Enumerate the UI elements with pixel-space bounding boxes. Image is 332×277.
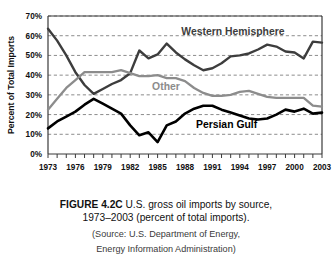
caption-title-text: U.S. gross oil imports by source, xyxy=(126,199,273,210)
y-tick-10pct: 10% xyxy=(26,130,43,139)
y-tick-50pct: 50% xyxy=(26,51,43,60)
series-label-other: Other xyxy=(152,81,180,92)
y-tick-70pct: 70% xyxy=(26,12,43,21)
x-tick-1988: 1988 xyxy=(176,163,195,172)
y-tick-30pct: 30% xyxy=(26,91,43,100)
caption-source-line-2: Energy Information Administration) xyxy=(14,243,318,256)
line-chart: 0%10%20%30%40%50%60%70% 1973197619791982… xyxy=(0,0,332,196)
y-tick-60pct: 60% xyxy=(26,32,43,41)
x-tick-1982: 1982 xyxy=(121,163,140,172)
figure-caption: FIGURE 4.2C U.S. gross oil imports by so… xyxy=(0,198,332,256)
x-axis-tick-labels: 1973197619791982198519881991199419972000… xyxy=(39,163,332,172)
x-tick-1985: 1985 xyxy=(148,163,167,172)
y-tick-0pct: 0% xyxy=(30,150,43,159)
y-tick-40pct: 40% xyxy=(26,71,43,80)
x-tick-1976: 1976 xyxy=(66,163,85,172)
figure-number: FIGURE 4.2C xyxy=(60,199,123,210)
x-tick-1973: 1973 xyxy=(39,163,58,172)
series-label-persian-gulf: Persian Gulf xyxy=(196,119,258,130)
x-tick-2000: 2000 xyxy=(285,163,304,172)
chart-plot-area: 0%10%20%30%40%50%60%70% 1973197619791982… xyxy=(0,0,332,196)
x-tick-1994: 1994 xyxy=(231,163,250,172)
y-tick-20pct: 20% xyxy=(26,111,43,120)
x-tick-1997: 1997 xyxy=(258,163,277,172)
caption-title-line-1: FIGURE 4.2C U.S. gross oil imports by so… xyxy=(14,198,318,211)
x-tick-1979: 1979 xyxy=(94,163,113,172)
y-axis-title: Percent of Total Imports xyxy=(6,36,16,134)
series-label-western-hemisphere: Western Hemisphere xyxy=(181,26,284,37)
figure-container: 0%10%20%30%40%50%60%70% 1973197619791982… xyxy=(0,0,332,277)
x-tick-2003: 2003 xyxy=(313,163,332,172)
caption-source-line-1: (Source: U.S. Department of Energy, xyxy=(14,228,318,241)
caption-title-line-2: 1973–2003 (percent of total imports). xyxy=(14,211,318,224)
x-tick-1991: 1991 xyxy=(203,163,222,172)
